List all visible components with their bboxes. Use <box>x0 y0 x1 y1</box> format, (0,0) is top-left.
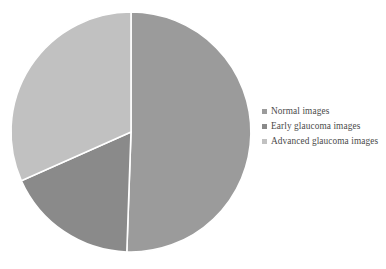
legend-label-normal-images: Normal images <box>271 107 329 116</box>
pie-slice-group <box>11 12 251 252</box>
chart-legend: Normal images Early glaucoma images Adva… <box>262 107 386 146</box>
legend-item-normal-images[interactable]: Normal images <box>262 107 386 116</box>
legend-swatch-advanced-glaucoma-images <box>262 139 267 144</box>
pie-chart-plot-area <box>0 0 258 269</box>
legend-item-advanced-glaucoma-images[interactable]: Advanced glaucoma images <box>262 137 386 146</box>
pie-slice[interactable] <box>127 12 251 252</box>
legend-item-early-glaucoma-images[interactable]: Early glaucoma images <box>262 122 386 131</box>
legend-label-early-glaucoma-images: Early glaucoma images <box>271 122 360 131</box>
legend-swatch-normal-images <box>262 109 267 114</box>
legend-swatch-early-glaucoma-images <box>262 124 267 129</box>
pie-chart-figure: Normal images Early glaucoma images Adva… <box>0 0 386 269</box>
pie-chart-svg <box>0 0 258 269</box>
legend-label-advanced-glaucoma-images: Advanced glaucoma images <box>271 137 378 146</box>
